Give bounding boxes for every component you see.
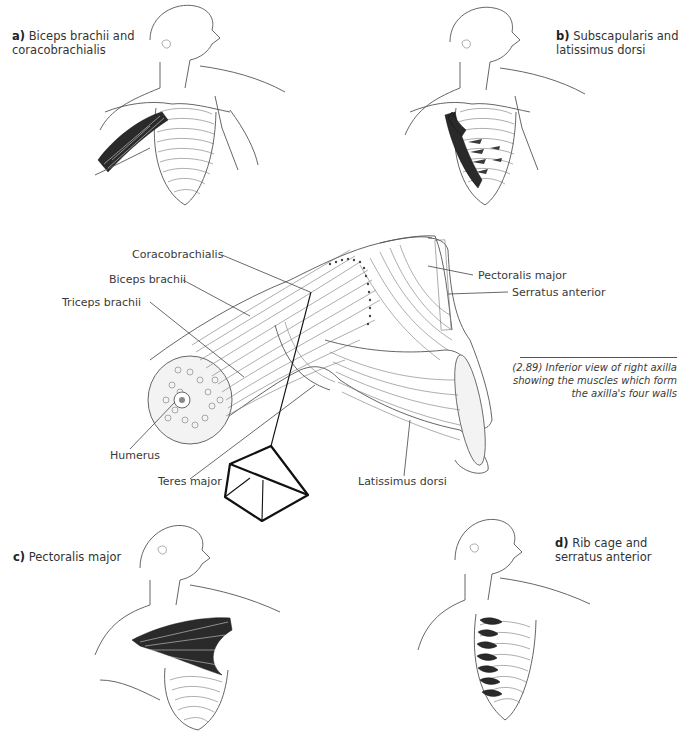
panel-d-title-line1: Rib cage and <box>572 536 647 550</box>
panel-b-label: b) Subscapularis and latissimus dorsi <box>556 29 678 57</box>
panel-c-label: c) Pectoralis major <box>13 550 121 564</box>
panel-c-letter: c) <box>13 550 25 564</box>
caption-divider <box>520 357 677 358</box>
label-latissimus-dorsi: Latissimus dorsi <box>358 475 447 489</box>
panel-c-title-line1: Pectoralis major <box>29 550 122 564</box>
figure-panel-c <box>95 525 280 730</box>
caption-line-3: the axilla's four walls <box>571 388 677 399</box>
caption-line-2: showing the muscles which form <box>513 375 677 386</box>
label-coracobrachialis: Coracobrachialis <box>132 248 223 262</box>
panel-a-letter: a) <box>12 29 25 43</box>
label-teres-major: Teres major <box>158 475 222 489</box>
panel-b-title-line2: latissimus dorsi <box>556 43 646 57</box>
label-humerus: Humerus <box>110 449 160 463</box>
panel-d-title-line2: serratus anterior <box>555 550 651 564</box>
panel-b-letter: b) <box>556 29 570 43</box>
panel-d-letter: d) <box>555 536 569 550</box>
caption-line-1: (2.89) Inferior view of right axilla <box>512 362 677 373</box>
figure-caption: (2.89) Inferior view of right axilla sho… <box>508 361 677 400</box>
label-triceps-brachii: Triceps brachii <box>62 296 141 310</box>
panel-d-label: d) Rib cage and serratus anterior <box>555 536 651 564</box>
label-pectoralis-major: Pectoralis major <box>478 269 566 283</box>
panel-a-title-line1: Biceps brachii and <box>29 29 135 43</box>
label-serratus-anterior: Serratus anterior <box>512 286 605 300</box>
panel-a-title-line2: coracobrachialis <box>12 43 106 57</box>
panel-b-title-line1: Subscapularis and <box>573 29 678 43</box>
label-biceps-brachii: Biceps brachii <box>109 273 186 287</box>
panel-a-label: a) Biceps brachii and coracobrachialis <box>12 29 134 57</box>
